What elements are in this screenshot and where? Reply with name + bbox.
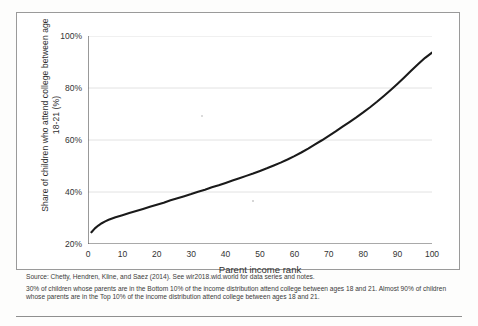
chart-plot-svg bbox=[88, 36, 432, 244]
y-tick-label: 20% bbox=[65, 239, 82, 249]
y-tick-label: 100% bbox=[60, 31, 82, 41]
x-tick-label: 60 bbox=[290, 249, 299, 259]
plot-area: 20%40%60%80%100% 0102030405060708090100 bbox=[88, 36, 432, 244]
x-tick-label: 70 bbox=[324, 249, 333, 259]
x-tick-label: 80 bbox=[358, 249, 367, 259]
x-tick-label: 0 bbox=[86, 249, 91, 259]
x-tick-label: 100 bbox=[425, 249, 439, 259]
y-tick-label: 60% bbox=[65, 135, 82, 145]
figure-notes: Source: Chetty, Hendren, Kline, and Saez… bbox=[26, 273, 458, 302]
source-line: Source: Chetty, Hendren, Kline, and Saez… bbox=[26, 273, 458, 281]
y-tick-label: 40% bbox=[65, 187, 82, 197]
y-tick-label: 80% bbox=[65, 83, 82, 93]
bottom-rule bbox=[16, 316, 462, 317]
x-tick-label: 40 bbox=[221, 249, 230, 259]
page-background: Share of children who attend college bet… bbox=[0, 0, 478, 326]
chart-figure: Share of children who attend college bet… bbox=[16, 12, 460, 270]
gridlines bbox=[88, 36, 432, 192]
y-axis-title: Share of children who attend college bet… bbox=[40, 17, 62, 213]
x-tick-label: 90 bbox=[393, 249, 402, 259]
x-tick-label: 30 bbox=[186, 249, 195, 259]
series-line-share-attending-college bbox=[91, 53, 432, 233]
x-tick-label: 10 bbox=[118, 249, 127, 259]
x-tick-label: 50 bbox=[255, 249, 264, 259]
note-line: 30% of children whose parents are in the… bbox=[26, 285, 458, 301]
x-tick-label: 20 bbox=[152, 249, 161, 259]
